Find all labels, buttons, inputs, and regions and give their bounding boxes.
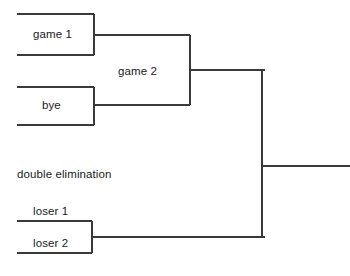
bracket-label-loser2: loser 2 xyxy=(33,238,68,250)
bracket-label-loser1: loser 1 xyxy=(33,206,68,218)
bracket-lines-svg xyxy=(0,0,350,276)
bracket-label-game1: game 1 xyxy=(33,29,72,41)
diagram-caption: double elimination xyxy=(17,169,112,181)
bracket-label-game2: game 2 xyxy=(118,66,157,78)
bracket-label-bye: bye xyxy=(42,100,61,112)
bracket-diagram: game 1 bye game 2 double elimination los… xyxy=(0,0,350,276)
